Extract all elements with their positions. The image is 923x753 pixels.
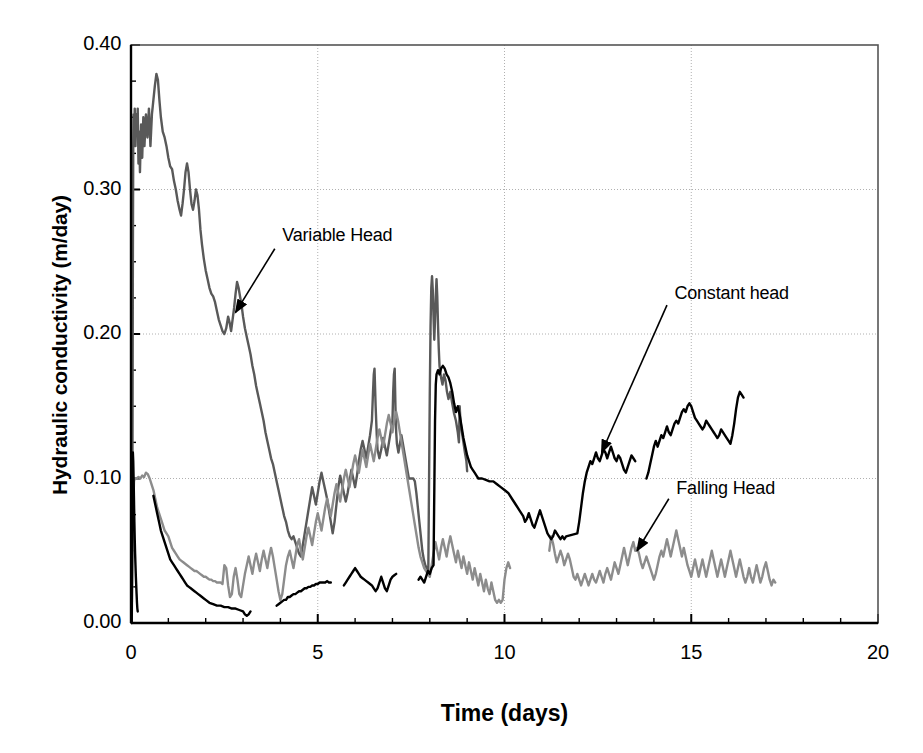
x-axis-label: Time (days) [131, 700, 878, 727]
y-tick-label: 0.10 [25, 466, 121, 489]
series-annotation-label: Variable Head [282, 225, 392, 246]
x-tick-label: 15 [661, 641, 721, 664]
x-tick-label: 10 [475, 641, 535, 664]
series-annotation-label: Falling Head [676, 478, 775, 499]
series-annotation-label: Constant head [674, 283, 789, 304]
gridlines [131, 45, 878, 623]
x-tick-label: 20 [848, 641, 908, 664]
y-tick-label: 0.40 [25, 32, 121, 55]
x-tick-label: 0 [101, 641, 161, 664]
data-series-layer [132, 74, 776, 623]
y-axis-label: Hydraulic conductivity (m/day) [48, 85, 72, 605]
chart-figure: Hydraulic conductivity (m/day) Time (day… [0, 0, 923, 753]
x-tick-label: 5 [288, 641, 348, 664]
y-tick-label: 0.20 [25, 321, 121, 344]
y-tick-label: 0.00 [25, 610, 121, 633]
y-tick-label: 0.30 [25, 177, 121, 200]
